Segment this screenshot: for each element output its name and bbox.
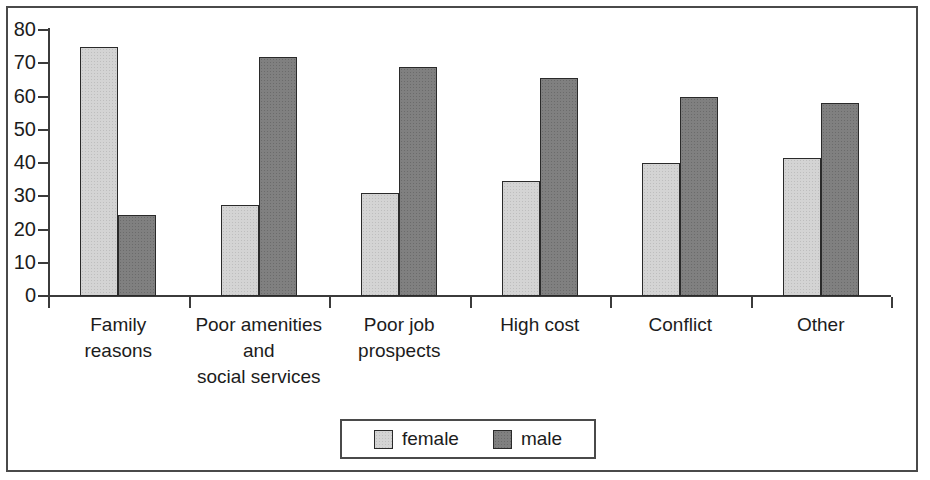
y-axis-tick-label: 80 [2, 19, 36, 39]
bar-female-5 [783, 158, 821, 296]
bar-male-1 [259, 57, 297, 296]
category-label-line: High cost [462, 312, 619, 338]
y-axis-tick-label: 10 [2, 252, 36, 272]
y-axis-tick [38, 229, 48, 231]
y-axis-tick-labels: 01020304050607080 [0, 0, 36, 480]
legend-label-female: female [402, 428, 459, 450]
y-axis-tick [38, 29, 48, 31]
x-axis-tick [610, 297, 612, 308]
category-label-line: Other [743, 312, 900, 338]
bar-female-2 [361, 193, 399, 296]
bar-male-5 [821, 103, 859, 296]
category-label-0: Familyreasons [40, 312, 197, 364]
category-label-line: reasons [40, 338, 197, 364]
category-label-line: Conflict [602, 312, 759, 338]
legend-swatch-female [374, 430, 393, 449]
y-axis-tick [38, 195, 48, 197]
y-axis-tick [38, 96, 48, 98]
category-label-2: Poor jobprospects [321, 312, 478, 364]
bars-layer [48, 25, 891, 296]
legend-item-female: female [374, 428, 459, 450]
bar-female-1 [221, 205, 259, 296]
x-axis-tick [470, 297, 472, 308]
category-label-3: High cost [462, 312, 619, 338]
legend-label-male: male [521, 428, 562, 450]
y-axis-tick-label: 0 [2, 285, 36, 305]
x-axis-tick [189, 297, 191, 308]
y-axis-tick-label: 50 [2, 119, 36, 139]
chart-figure: 01020304050607080 FamilyreasonsPoor amen… [0, 0, 930, 480]
bar-female-0 [80, 47, 118, 296]
y-axis-tick-label: 70 [2, 52, 36, 72]
x-axis-tick [891, 297, 893, 308]
bar-male-4 [680, 97, 718, 297]
category-label-5: Other [743, 312, 900, 338]
x-axis-tick [329, 297, 331, 308]
y-axis-tick-label: 40 [2, 152, 36, 172]
category-label-4: Conflict [602, 312, 759, 338]
bar-male-2 [399, 67, 437, 296]
category-label-1: Poor amenitiesandsocial services [181, 312, 338, 390]
category-label-line: social services [181, 364, 338, 390]
category-label-line: Poor amenities [181, 312, 338, 338]
y-axis-tick-label: 60 [2, 86, 36, 106]
bar-male-0 [118, 215, 156, 296]
y-axis-tick-label: 30 [2, 185, 36, 205]
bar-female-4 [642, 163, 680, 296]
bar-male-3 [540, 78, 578, 296]
y-axis-tick [38, 62, 48, 64]
legend-swatch-male [493, 430, 512, 449]
category-label-line: and [181, 338, 338, 364]
legend-item-male: male [493, 428, 562, 450]
category-label-line: Family [40, 312, 197, 338]
y-axis-tick [38, 295, 48, 297]
bar-female-3 [502, 181, 540, 296]
x-axis-tick [48, 297, 50, 308]
y-axis-tick-label: 20 [2, 219, 36, 239]
category-label-line: prospects [321, 338, 478, 364]
x-axis-tick [751, 297, 753, 308]
y-axis-tick [38, 162, 48, 164]
chart-legend: femalemale [340, 419, 596, 459]
y-axis-tick [38, 129, 48, 131]
category-label-line: Poor job [321, 312, 478, 338]
y-axis-tick [38, 262, 48, 264]
x-axis-category-labels: FamilyreasonsPoor amenitiesandsocial ser… [48, 312, 891, 402]
